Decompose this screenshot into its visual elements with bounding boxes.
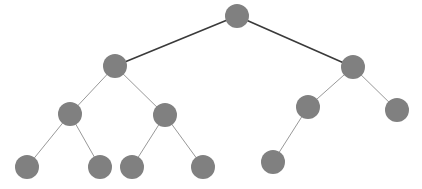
tree-node-n-rl[interactable] bbox=[296, 95, 320, 119]
tree-node-n-lrr[interactable] bbox=[191, 155, 215, 179]
tree-node-n-lrl[interactable] bbox=[120, 155, 144, 179]
tree-diagram-canvas bbox=[0, 0, 422, 189]
tree-node-n-llr[interactable] bbox=[88, 155, 112, 179]
tree-node-n-rr[interactable] bbox=[385, 98, 409, 122]
tree-edge-root-to-n-l bbox=[115, 16, 237, 66]
tree-node-n-lll[interactable] bbox=[15, 155, 39, 179]
tree-node-n-lr[interactable] bbox=[153, 103, 177, 127]
tree-node-n-r[interactable] bbox=[341, 55, 365, 79]
tree-node-n-l[interactable] bbox=[103, 54, 127, 78]
edge-layer bbox=[27, 16, 397, 167]
tree-svg bbox=[0, 0, 422, 189]
tree-node-root[interactable] bbox=[225, 4, 249, 28]
tree-edge-root-to-n-r bbox=[237, 16, 353, 67]
tree-node-n-ll[interactable] bbox=[58, 102, 82, 126]
tree-node-n-rll[interactable] bbox=[261, 150, 285, 174]
node-layer bbox=[15, 4, 409, 179]
